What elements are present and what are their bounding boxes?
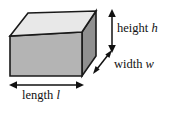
box-front-face: [10, 32, 82, 76]
width-label-word: width: [114, 57, 142, 71]
height-label: height h: [117, 22, 158, 35]
height-label-word: height: [117, 21, 148, 35]
height-arrow: [108, 9, 116, 53]
width-label-variable: w: [146, 57, 154, 71]
length-label-variable: l: [56, 88, 59, 102]
length-label: length l: [22, 89, 60, 102]
width-label: width w: [114, 58, 154, 71]
box-dimensions-figure: height h width w length l: [0, 0, 171, 119]
height-label-variable: h: [151, 21, 157, 35]
length-label-word: length: [22, 88, 53, 102]
